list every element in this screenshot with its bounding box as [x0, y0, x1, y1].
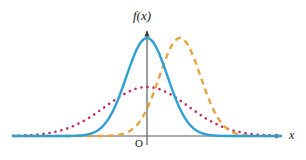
y-axis-label: f(x) [133, 9, 151, 22]
plot-canvas [0, 0, 306, 160]
axis-group [18, 31, 281, 145]
x-axis-label: x [289, 129, 294, 141]
normal-distribution-figure: f(x) x O [0, 0, 306, 160]
origin-label: O [135, 138, 143, 149]
